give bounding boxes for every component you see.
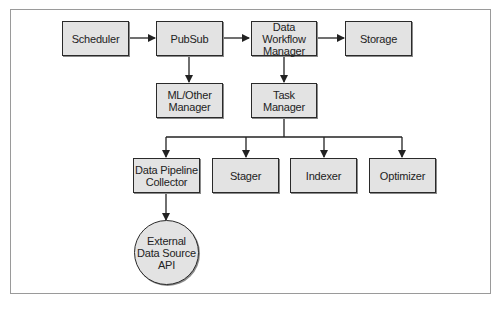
node-label: Scheduler [72, 33, 120, 45]
node-label: PubSub [171, 33, 209, 45]
node-external-data-source-api: External Data Source API [134, 220, 199, 285]
node-label: Optimizer [380, 170, 425, 182]
node-label: Data Workflow Manager [252, 21, 316, 57]
node-stager: Stager [212, 158, 279, 193]
node-label: Stager [230, 170, 261, 182]
node-ml-other-manager: ML/Other Manager [156, 83, 223, 118]
node-label: Task Manager [263, 89, 305, 113]
node-indexer: Indexer [290, 158, 357, 193]
node-storage: Storage [345, 21, 412, 56]
node-label: Data Pipeline Collector [135, 164, 198, 188]
node-pubsub: PubSub [156, 21, 223, 56]
node-scheduler: Scheduler [62, 21, 129, 56]
node-data-pipeline-collector: Data Pipeline Collector [133, 158, 200, 193]
node-task-manager: Task Manager [251, 83, 317, 118]
node-optimizer: Optimizer [369, 158, 436, 193]
node-label: ML/Other Manager [167, 89, 211, 113]
node-label: Indexer [306, 170, 341, 182]
node-label: External Data Source API [137, 235, 196, 271]
node-label: Storage [360, 33, 397, 45]
node-data-workflow-manager: Data Workflow Manager [251, 21, 317, 56]
